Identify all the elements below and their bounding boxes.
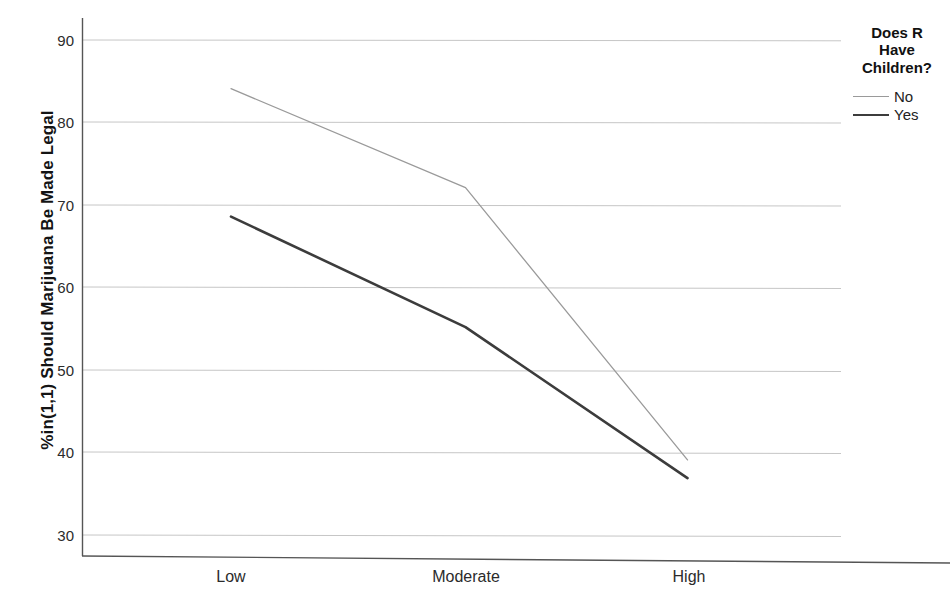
x-tick-label-low: Low [216, 568, 245, 586]
x-axis-spine [82, 556, 950, 563]
legend-item-no[interactable]: No [843, 89, 951, 104]
legend-line-swatch-no [853, 96, 889, 97]
line-chart: %in(1,1) Should Marijuana Be Made Legal … [0, 0, 951, 611]
legend-label-yes: Yes [894, 107, 918, 122]
x-tick-label-high: High [673, 568, 706, 586]
legend-title: Does R Have Children? [843, 24, 951, 76]
legend-title-line-1: Does R [843, 24, 951, 41]
plot-area [0, 0, 951, 611]
legend: Does R Have Children? No Yes [843, 24, 951, 125]
legend-title-line-3: Children? [843, 59, 951, 76]
gridlines [83, 40, 841, 537]
legend-title-line-2: Have [843, 41, 951, 58]
legend-label-no: No [894, 89, 913, 104]
x-tick-label-moderate: Moderate [432, 568, 500, 586]
legend-line-swatch-yes [853, 114, 889, 116]
series-line-no [231, 89, 688, 460]
legend-item-yes[interactable]: Yes [843, 107, 951, 122]
series-line-yes [231, 217, 688, 479]
